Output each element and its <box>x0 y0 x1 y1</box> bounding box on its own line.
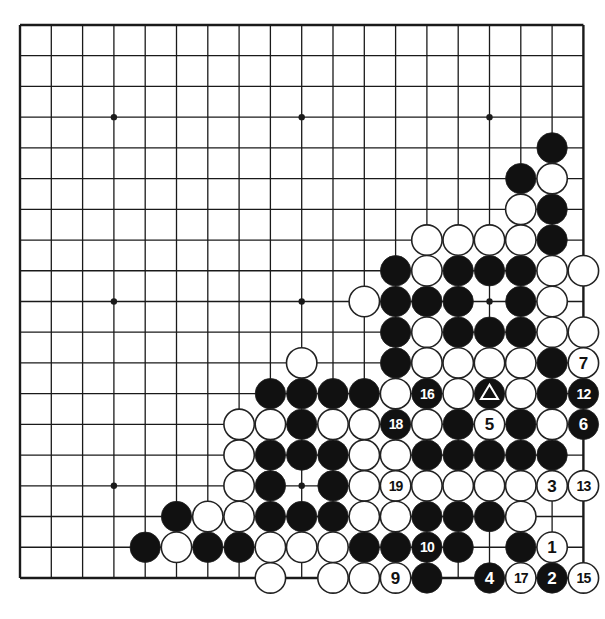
stone-circle <box>224 471 254 501</box>
white-stone: 3 <box>537 471 567 501</box>
white-stone <box>380 501 410 531</box>
star-point-icon <box>111 483 117 489</box>
black-stone <box>443 256 473 286</box>
stone-circle <box>318 471 348 501</box>
black-stone <box>443 532 473 562</box>
stone-circle <box>349 563 379 593</box>
stone-circle <box>412 501 442 531</box>
white-stone <box>349 471 379 501</box>
go-board-diagram: 716121856193131019417215 <box>0 0 605 619</box>
stone-circle <box>349 286 379 316</box>
stone-circle <box>287 532 317 562</box>
white-stone <box>380 440 410 470</box>
black-stone <box>287 409 317 439</box>
black-stone <box>443 409 473 439</box>
stone-circle <box>474 225 504 255</box>
black-stone <box>474 317 504 347</box>
stone-circle <box>318 501 348 531</box>
white-stone <box>255 409 285 439</box>
stone-circle <box>537 225 567 255</box>
white-stone <box>506 194 536 224</box>
star-point-icon <box>486 114 492 120</box>
stone-circle <box>349 471 379 501</box>
white-stone: 17 <box>506 563 536 593</box>
black-stone <box>506 256 536 286</box>
white-stone <box>537 317 567 347</box>
stone-circle <box>255 532 285 562</box>
white-stone <box>568 317 598 347</box>
black-stone <box>412 563 442 593</box>
white-stone <box>474 225 504 255</box>
stone-circle <box>443 286 473 316</box>
move-number-label: 13 <box>577 478 592 494</box>
stone-circle <box>537 378 567 408</box>
stone-circle <box>443 440 473 470</box>
stone-circle <box>255 440 285 470</box>
stone-circle <box>318 378 348 408</box>
move-number-label: 19 <box>389 478 404 494</box>
star-point-icon <box>111 114 117 120</box>
black-stone <box>412 286 442 316</box>
white-stone <box>506 471 536 501</box>
stone-circle <box>443 409 473 439</box>
stone-circle <box>287 348 317 378</box>
white-stone <box>412 256 442 286</box>
star-point-icon <box>111 298 117 304</box>
move-number-label: 9 <box>391 569 400 588</box>
black-stone <box>474 501 504 531</box>
black-stone <box>474 256 504 286</box>
stone-circle <box>412 225 442 255</box>
stone-circle <box>130 532 160 562</box>
stone-circle <box>380 317 410 347</box>
stone-circle <box>537 317 567 347</box>
stone-circle <box>349 378 379 408</box>
stone-circle <box>380 501 410 531</box>
stone-circle <box>161 532 191 562</box>
black-stone: 4 <box>474 563 504 593</box>
stone-circle <box>380 286 410 316</box>
stone-circle <box>506 194 536 224</box>
black-stone <box>474 440 504 470</box>
stone-circle <box>443 317 473 347</box>
black-stone <box>506 409 536 439</box>
white-stone: 13 <box>568 471 598 501</box>
black-stone <box>255 471 285 501</box>
move-number-label: 5 <box>485 415 494 434</box>
black-stone: 2 <box>537 563 567 593</box>
stone-circle <box>349 409 379 439</box>
white-stone: 7 <box>568 348 598 378</box>
stone-circle <box>255 471 285 501</box>
black-stone <box>318 440 348 470</box>
white-stone: 19 <box>380 471 410 501</box>
black-stone <box>255 378 285 408</box>
black-stone <box>537 133 567 163</box>
white-stone <box>224 501 254 531</box>
white-stone <box>349 286 379 316</box>
white-stone <box>474 471 504 501</box>
black-stone <box>287 378 317 408</box>
stone-circle <box>443 501 473 531</box>
black-stone: 6 <box>568 409 598 439</box>
black-stone <box>474 378 504 408</box>
stone-circle <box>537 163 567 193</box>
move-number-label: 4 <box>485 569 495 588</box>
white-stone <box>224 440 254 470</box>
black-stone <box>255 501 285 531</box>
stone-circle <box>537 286 567 316</box>
black-stone: 18 <box>380 409 410 439</box>
stone-circle <box>506 225 536 255</box>
stone-circle <box>443 256 473 286</box>
black-stone <box>443 501 473 531</box>
move-number-label: 3 <box>547 477 556 496</box>
black-stone <box>193 532 223 562</box>
white-stone: 1 <box>537 532 567 562</box>
stone-circle <box>255 409 285 439</box>
white-stone <box>443 348 473 378</box>
stone-circle <box>255 378 285 408</box>
white-stone: 5 <box>474 409 504 439</box>
white-stone: 15 <box>568 563 598 593</box>
stone-circle <box>506 378 536 408</box>
black-stone <box>380 532 410 562</box>
stone-circle <box>568 256 598 286</box>
stone-circle <box>412 440 442 470</box>
